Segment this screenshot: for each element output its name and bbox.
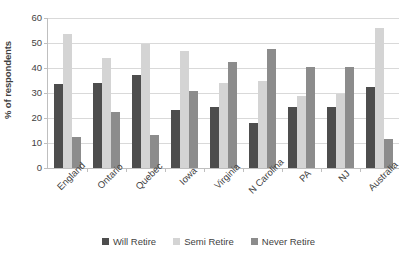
x-axis-labels: EnglandOntarioQuebecIowaVirginiaN Caroli… (47, 170, 399, 228)
x-axis-label: PA (297, 168, 313, 184)
bar (189, 91, 198, 168)
legend-item[interactable]: Never Retire (251, 236, 315, 247)
bar (306, 67, 315, 168)
bar (63, 34, 72, 168)
y-tick-label: 50 (31, 38, 42, 48)
y-axis-title: % of respondents (2, 0, 16, 160)
y-tick-label: 60 (31, 13, 42, 23)
bar (111, 112, 120, 168)
bar (171, 110, 180, 168)
bar (141, 44, 150, 169)
bar (93, 83, 102, 168)
legend-item[interactable]: Semi Retire (173, 236, 234, 247)
y-tick-label: 20 (31, 113, 42, 123)
x-label-slot: Virginia (203, 170, 242, 228)
legend-label: Never Retire (262, 236, 315, 247)
bar (327, 107, 336, 169)
bar (180, 51, 189, 168)
x-label-slot: NJ (321, 170, 360, 228)
bar-group (243, 18, 282, 168)
bar (258, 81, 267, 169)
bar (102, 58, 111, 168)
bar (132, 75, 141, 168)
x-label-slot: Ontario (86, 170, 125, 228)
bar (54, 84, 63, 169)
legend-swatch-icon (102, 238, 109, 245)
x-label-slot: Quebec (125, 170, 164, 228)
bar (297, 96, 306, 169)
bar-group (87, 18, 126, 168)
bar-group (126, 18, 165, 168)
bar (336, 94, 345, 168)
bar-group (204, 18, 243, 168)
bars-layer (48, 18, 399, 168)
bar (228, 62, 237, 169)
x-label-slot: Australia (360, 170, 399, 228)
legend-label: Will Retire (113, 236, 156, 247)
bar (219, 83, 228, 168)
bar (249, 123, 258, 168)
y-tick-label: 30 (31, 88, 42, 98)
bar (267, 49, 276, 168)
bar-chart: % of respondents 0102030405060 EnglandOn… (0, 0, 417, 267)
legend-label: Semi Retire (184, 236, 234, 247)
x-label-slot: N Carolina (243, 170, 282, 228)
bar (288, 107, 297, 169)
bar-group (321, 18, 360, 168)
y-tick-label: 0 (37, 163, 42, 173)
y-tick-label: 40 (31, 63, 42, 73)
bar (375, 28, 384, 168)
legend-swatch-icon (173, 238, 180, 245)
bar (210, 107, 219, 168)
x-axis-label: NJ (336, 168, 352, 184)
legend-item[interactable]: Will Retire (102, 236, 156, 247)
bar-group (360, 18, 399, 168)
x-label-slot: Iowa (164, 170, 203, 228)
legend-swatch-icon (251, 238, 258, 245)
plot-area: 0102030405060 (47, 18, 399, 168)
bar-group (282, 18, 321, 168)
bar-group (48, 18, 87, 168)
bar-group (165, 18, 204, 168)
y-tick-label: 10 (31, 138, 42, 148)
bar (345, 67, 354, 168)
x-label-slot: England (47, 170, 86, 228)
chart-legend: Will RetireSemi RetireNever Retire (0, 236, 417, 247)
x-label-slot: PA (282, 170, 321, 228)
bar (366, 87, 375, 168)
